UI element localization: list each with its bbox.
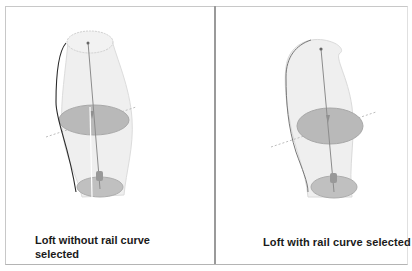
- panel-loft-without-rail: Loft without rail curve selected: [6, 7, 214, 263]
- top-profile: [67, 31, 113, 53]
- caption-loft-with-rail: Loft with rail curve selected: [263, 235, 411, 249]
- bottom-marker-icon: [330, 173, 337, 183]
- loft-without-rail-illustration: [6, 7, 214, 263]
- middle-profile: [297, 108, 363, 144]
- panel-loft-with-rail: Loft with rail curve selected: [216, 7, 406, 263]
- top-point: [319, 47, 322, 50]
- bottom-marker-icon: [96, 171, 103, 181]
- caption-loft-without-rail: Loft without rail curve selected: [35, 233, 175, 261]
- loft-with-rail-illustration: [216, 7, 406, 263]
- top-point: [87, 42, 90, 45]
